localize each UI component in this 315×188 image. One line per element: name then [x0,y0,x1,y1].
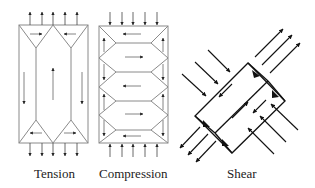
shear-label: Shear [227,166,257,182]
compression-right-zigzag [151,26,168,143]
compression-load-arrows-bottom [110,144,157,157]
tension-label: Tension [34,166,75,182]
compression-flow-arrows [104,34,163,136]
compression-load-arrows-top [110,12,157,25]
deformation-diagram [0,0,315,188]
tension-flow-arrows [24,34,82,133]
tension-bottom-triangles [19,120,88,143]
tension-load-arrows-bottom [30,143,77,156]
tension-box [19,25,88,143]
shear-tension-arrows-top [255,29,300,73]
tension-panel [19,25,88,143]
compression-left-zigzag [99,26,116,143]
compression-label: Compression [99,166,168,182]
compression-panel [99,26,168,143]
shear-panel [195,63,285,153]
shear-normal-arrows-right [248,104,298,154]
compression-box [99,26,168,143]
tension-load-arrows-top [30,12,77,25]
tension-top-triangles [19,25,88,48]
